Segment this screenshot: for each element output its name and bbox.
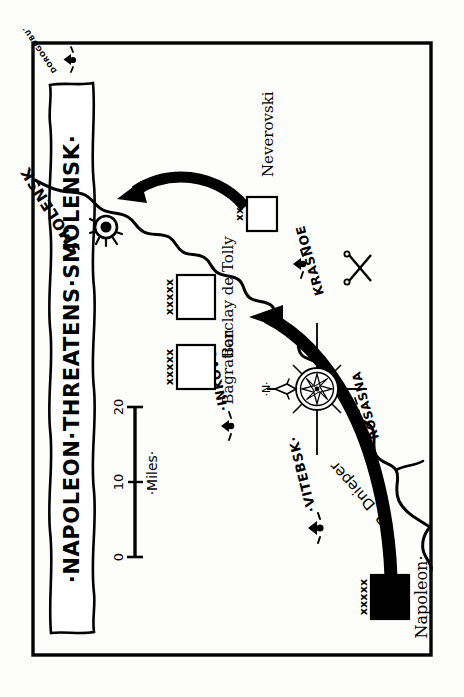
scale-label-20: 20 (111, 398, 126, 415)
title-cartouche: ·NAPOLEON·THREATENS·SMOLENSK· (49, 83, 95, 633)
barclay-unit-box (177, 275, 215, 319)
neverovski-unit-box (247, 197, 277, 231)
map-canvas: ·NAPOLEON·THREATENS·SMOLENSK· 0 10 20 ·M… (17, 29, 447, 669)
neverovski-label: Neverovski (259, 91, 277, 177)
map-title: ·NAPOLEON·THREATENS·SMOLENSK· (60, 134, 84, 583)
bagration-echelon: xxxxx (163, 348, 176, 384)
map-stage: ·NAPOLEON·THREATENS·SMOLENSK· 0 10 20 ·M… (17, 29, 447, 669)
compass-north-label: ·N· (260, 381, 273, 396)
barclay-echelon: xxxxx (163, 278, 176, 314)
bagration-unit-box (177, 345, 215, 389)
scale-label-0: 0 (111, 552, 126, 560)
scale-units-label: ·Miles· (144, 450, 160, 495)
scale-label-10: 10 (111, 473, 126, 490)
napoleon-label: Napoleon· (412, 555, 431, 638)
neverovski-echelon: xx (233, 207, 245, 221)
napoleon-unit-box (371, 575, 409, 619)
map-page: ·NAPOLEON·THREATENS·SMOLENSK· 0 10 20 ·M… (0, 0, 464, 697)
napoleon-echelon: xxxxx (357, 578, 370, 614)
barclay-label: Barclay de Tolly (219, 235, 237, 357)
